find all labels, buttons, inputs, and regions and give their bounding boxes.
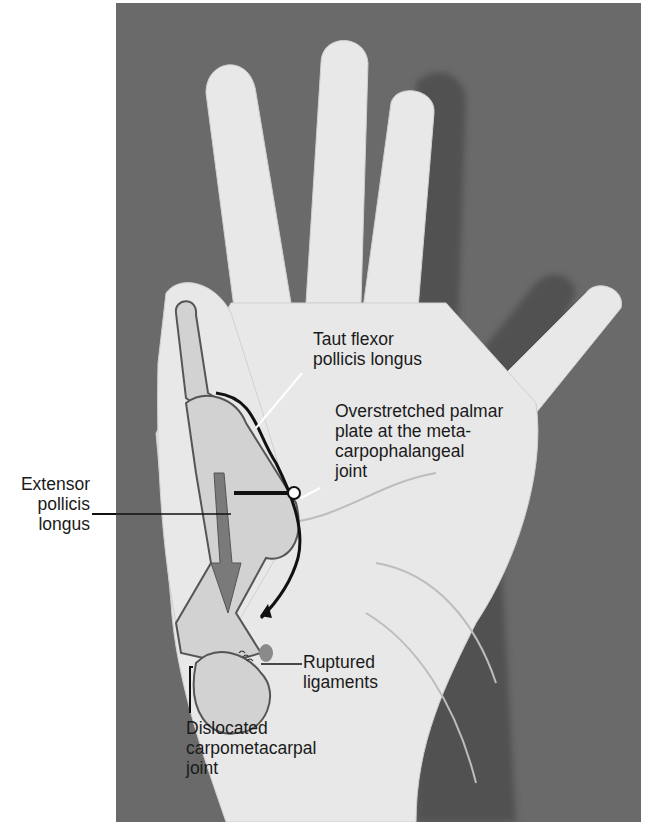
label-taut-flexor: Taut flexor pollicis longus [313, 329, 422, 369]
label-overstretched-palmar-plate: Overstretched palmar plate at the meta- … [335, 401, 503, 481]
label-dislocated-cmc-joint: Dislocated carpometacarpal joint [186, 718, 316, 778]
label-ruptured-ligaments: Ruptured ligaments [303, 652, 378, 692]
extensor-leader-line [92, 513, 116, 515]
label-extensor-pollicis-longus: Extensor pollicis longus [0, 474, 90, 534]
